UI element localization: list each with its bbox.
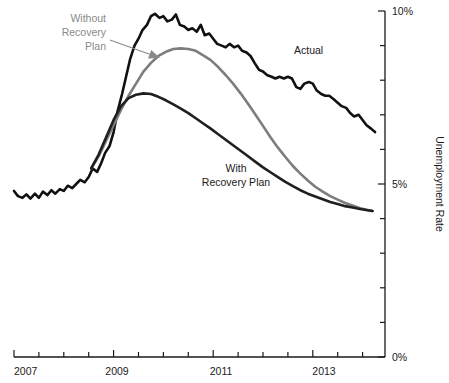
series-line-actual [14,14,375,199]
actual-label-line-0: Actual [294,44,323,56]
axes [14,11,385,357]
y-axis-ticks [378,11,385,357]
without-recovery-plan-label-line-2: Plan [85,40,106,52]
x-axis-label-2011: 2011 [210,365,233,377]
with-recovery-plan-label-line-1: Recovery Plan [202,176,270,188]
unemployment-rate-chart: 10% 5% 0% 2007 2009 2011 2013 Unemployme… [0,0,449,383]
without-recovery-plan-arrow-shaft [110,40,150,54]
x-axis-label-2009: 2009 [105,365,129,377]
x-axis-ticks [14,350,363,357]
without-recovery-plan-label: WithoutRecoveryPlan [62,12,107,52]
with-recovery-plan-label-line-0: With [226,162,247,174]
actual-label: Actual [294,44,323,56]
y-axis-label-5: 5% [392,178,407,190]
without-recovery-plan-label-line-1: Recovery [62,26,107,38]
x-axis-label-2007: 2007 [14,365,38,377]
chart-canvas: 10% 5% 0% 2007 2009 2011 2013 Unemployme… [0,0,449,383]
without-recovery-plan-label-line-0: Without [70,12,106,24]
y-axis-label-10: 10% [392,5,413,17]
without-recovery-plan-arrow-head [148,50,160,59]
x-axis-label-2013: 2013 [312,365,336,377]
y-axis-label-0: 0% [392,351,407,363]
y-axis-title: Unemployment Rate [434,136,446,232]
series-line-with-recovery-plan [91,93,372,211]
